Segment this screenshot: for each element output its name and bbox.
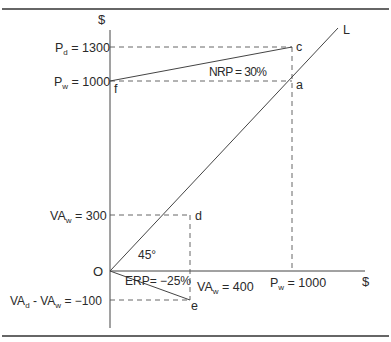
x-axis-label: $ <box>362 274 370 289</box>
angle-annotation: 45° <box>138 248 156 262</box>
point-label-e: e <box>191 299 198 313</box>
line-label-L: L <box>343 23 350 37</box>
x-label-vaw: VAw = 400 <box>197 280 254 296</box>
point-label-d: d <box>195 209 202 223</box>
y-label-vaw: VAw = 300 <box>50 209 107 225</box>
point-label-c: c <box>296 40 302 54</box>
point-label-a: a <box>296 78 303 92</box>
y-axis-label: $ <box>98 12 106 27</box>
y-label-pd: Pd = 1300 <box>55 41 110 57</box>
erp-annotation: ERP= −25% <box>125 274 191 288</box>
nrp-erp-diagram: $ $ O Pd = 1300 Pw = 1000 VAw = 300 VAd … <box>0 0 391 342</box>
origin-label: O <box>93 264 103 279</box>
y-label-pw: Pw = 1000 <box>54 75 110 91</box>
y-label-vadiff: VAd - VAw = −100 <box>10 294 102 310</box>
nrp-annotation: NRP = 30% <box>209 65 267 79</box>
x-label-pw: Pw = 1000 <box>270 276 326 292</box>
point-label-f: f <box>114 82 118 96</box>
